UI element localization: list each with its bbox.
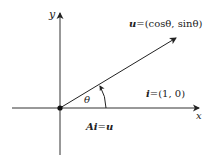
vector-u-value: (cosθ, sinθ) — [145, 18, 203, 29]
vector-u-label: u=(cosθ, sinθ) — [129, 19, 202, 29]
unit-vector-i-value: (1, 0) — [158, 88, 185, 99]
unit-vector-i-equals: = — [150, 88, 158, 99]
equation-u-symbol: u — [106, 121, 113, 132]
unit-vector-i-label: i=(1, 0) — [146, 89, 185, 99]
matrix-a-symbol: A — [86, 121, 94, 132]
origin-dot — [57, 105, 62, 110]
rotation-diagram: y x u=(cosθ, sinθ) θ i=(1, 0) Ai=u — [0, 0, 211, 163]
x-axis-label: x — [196, 111, 202, 121]
angle-theta-label: θ — [84, 95, 90, 105]
y-axis-label: y — [49, 9, 55, 20]
equation-ai-equals-u: Ai=u — [86, 122, 113, 132]
vector-u-equals: = — [136, 18, 144, 29]
angle-arc-arrow — [100, 86, 106, 108]
equation-equals: = — [98, 121, 106, 132]
